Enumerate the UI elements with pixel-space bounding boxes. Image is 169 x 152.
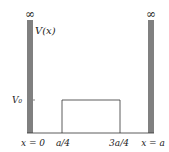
right-wall (148, 20, 154, 133)
x-left-wall-label: x = 0 (21, 138, 45, 148)
potential-label: V(x) (35, 25, 56, 36)
barrier-height-label: V₀ (12, 95, 22, 105)
barrier-start-label: a/4 (56, 138, 70, 148)
right-infinity-label: ∞ (146, 7, 156, 21)
left-infinity-label: ∞ (25, 7, 35, 21)
barrier-end-label: 3a/4 (109, 138, 129, 148)
x-right-wall-label: x = a (141, 138, 165, 148)
barrier (62, 100, 120, 133)
left-wall (27, 20, 33, 133)
potential-well-diagram: ∞ ∞ V(x) V₀ x = 0 a/4 3a/4 x = a (0, 0, 169, 152)
